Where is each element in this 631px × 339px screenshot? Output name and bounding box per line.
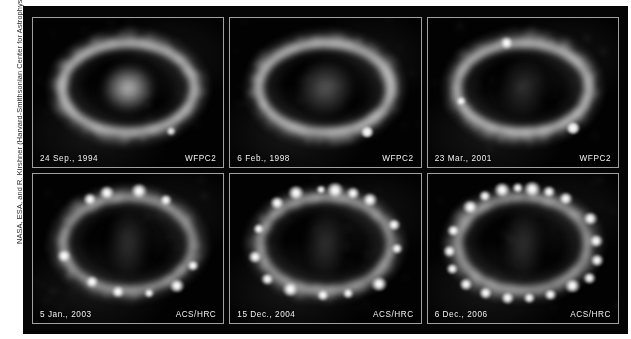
background-noise-speck	[457, 23, 464, 30]
central-ejecta	[301, 64, 350, 112]
background-noise-speck	[303, 45, 307, 48]
background-noise-speck	[240, 102, 246, 105]
background-noise-speck	[101, 43, 105, 48]
ring-hotspot	[144, 289, 154, 298]
ring-clump	[253, 233, 263, 241]
background-noise-speck	[532, 213, 537, 216]
background-noise-speck	[466, 255, 472, 261]
central-ejecta	[502, 63, 544, 114]
ring-hotspot	[58, 250, 72, 262]
background-noise-speck	[252, 121, 256, 124]
background-noise-speck	[415, 122, 419, 126]
ring-hotspot	[160, 195, 172, 206]
ring-hotspot	[589, 235, 603, 247]
background-noise-speck	[60, 306, 64, 309]
ring-hotspot	[270, 197, 284, 209]
mosaic-frame: 24 Sep., 1994 WFPC2 6 Feb., 1998 WFPC2	[23, 6, 628, 334]
panel-2004[interactable]: 15 Dec., 2004 ACS/HRC	[229, 173, 421, 324]
background-noise-speck	[386, 17, 393, 20]
ring-hotspot	[371, 276, 387, 290]
background-noise-speck	[305, 298, 309, 302]
ring-hotspot	[131, 184, 147, 198]
ring-hotspot	[558, 192, 572, 205]
background-noise-speck	[127, 17, 134, 21]
background-noise-speck	[491, 127, 496, 132]
background-noise-speck	[386, 212, 393, 215]
background-noise-speck	[175, 246, 179, 249]
background-noise-speck	[584, 35, 590, 41]
ring-clump	[191, 82, 201, 90]
background-noise-speck	[532, 22, 536, 28]
background-noise-speck	[487, 144, 491, 150]
background-noise-speck	[503, 130, 508, 136]
background-noise-speck	[46, 245, 50, 251]
background-noise-speck	[551, 227, 555, 230]
panel-1994[interactable]: 24 Sep., 1994 WFPC2	[32, 17, 224, 168]
background-noise-speck	[409, 71, 415, 76]
background-noise-speck	[159, 213, 165, 217]
background-noise-speck	[234, 100, 239, 105]
panel-1998[interactable]: 6 Feb., 1998 WFPC2	[229, 17, 421, 168]
background-noise-speck	[440, 199, 443, 204]
background-noise-speck	[81, 131, 86, 136]
background-noise-speck	[237, 85, 242, 88]
background-noise-speck	[147, 116, 153, 119]
ring-hotspot	[261, 274, 273, 285]
background-noise-speck	[499, 49, 504, 52]
figure-root: NASA, ESA, and R. Kirshner (Harvard-Smit…	[0, 0, 631, 339]
ring-hotspot	[447, 225, 459, 236]
background-noise-speck	[52, 31, 55, 36]
background-noise-speck	[474, 82, 482, 88]
ring-hotspot	[391, 243, 403, 254]
background-noise-speck	[470, 50, 475, 54]
background-noise-speck	[559, 102, 566, 106]
ring-hotspot	[500, 37, 514, 49]
background-noise-speck	[241, 18, 246, 24]
panel-2001[interactable]: 23 Mar., 2001 WFPC2	[427, 17, 619, 168]
ring-hotspot	[583, 212, 597, 225]
background-noise-speck	[345, 244, 349, 250]
ring-hotspot	[501, 292, 515, 304]
background-noise-speck	[590, 180, 597, 185]
background-noise-speck	[77, 61, 84, 67]
background-noise-speck	[369, 243, 372, 247]
background-noise-speck	[194, 251, 198, 255]
ring-clump	[257, 100, 268, 109]
background-noise-speck	[33, 279, 36, 284]
background-noise-speck	[173, 39, 180, 44]
background-noise-speck	[119, 280, 123, 283]
background-noise-speck	[572, 79, 579, 84]
background-noise-speck	[364, 251, 371, 257]
background-noise-speck	[110, 127, 115, 130]
panel-2003[interactable]: 5 Jan., 2003 ACS/HRC	[32, 173, 224, 324]
background-noise-speck	[194, 248, 200, 252]
ring-hotspot	[187, 260, 199, 271]
ring-hotspot	[524, 182, 541, 197]
panel-grid: 24 Sep., 1994 WFPC2 6 Feb., 1998 WFPC2	[32, 17, 619, 324]
background-noise-speck	[44, 110, 50, 113]
background-noise-speck	[234, 48, 237, 54]
background-noise-speck	[597, 178, 603, 182]
ring-hotspot	[317, 290, 329, 301]
background-noise-speck	[347, 260, 354, 264]
background-noise-speck	[201, 193, 208, 199]
background-noise-speck	[464, 152, 470, 158]
ring-hotspot	[248, 251, 262, 263]
ring-hotspot	[288, 186, 304, 200]
background-noise-speck	[108, 22, 115, 25]
background-noise-speck	[362, 306, 369, 310]
background-noise-speck	[489, 79, 496, 84]
background-noise-speck	[609, 208, 616, 213]
ring-hotspot	[463, 200, 477, 213]
ring-hotspot	[327, 183, 344, 198]
panel-2006[interactable]: 6 Dec., 2006 ACS/HRC	[427, 173, 619, 324]
background-noise-speck	[269, 245, 272, 251]
background-noise-speck	[346, 117, 350, 121]
background-noise-speck	[469, 103, 476, 109]
ring-hotspot	[343, 289, 354, 298]
central-ejecta	[505, 214, 541, 274]
background-noise-speck	[46, 191, 50, 195]
background-noise-speck	[346, 225, 351, 230]
background-noise-speck	[297, 77, 301, 83]
background-noise-speck	[373, 250, 377, 254]
